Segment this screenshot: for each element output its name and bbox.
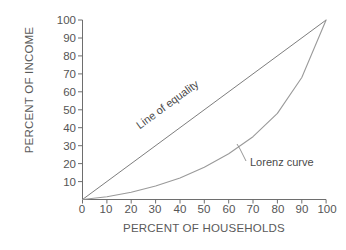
x-axis-tick-labels: 0 10 20 30 40 50 60 70 80 90 100 <box>0 0 346 250</box>
lorenz-curve-annotation: Lorenz curve <box>250 156 314 168</box>
x-tick-label: 100 <box>312 203 342 215</box>
x-axis-title: PERCENT OF HOUSEHOLDS <box>82 222 326 234</box>
lorenz-curve-chart: PERCENT OF INCOME 100 90 80 70 60 50 40 … <box>0 0 346 250</box>
